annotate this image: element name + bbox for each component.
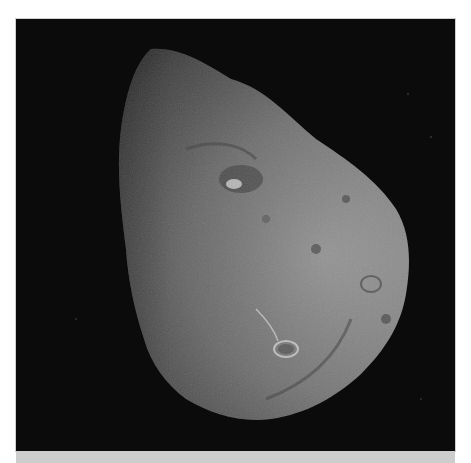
nucleus-body	[16, 19, 455, 451]
comet-nucleus-image	[16, 19, 455, 451]
bottom-band	[16, 451, 455, 463]
photo-frame	[16, 19, 455, 451]
